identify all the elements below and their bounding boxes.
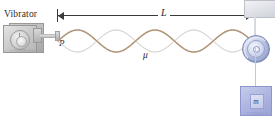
- mass-shadow: [239, 112, 271, 116]
- wave-envelope-upper: [58, 30, 252, 41]
- standing-wave-graphic: [0, 0, 275, 119]
- mass-label: m: [241, 87, 271, 115]
- hanging-string: [255, 48, 257, 86]
- physics-diagram-standing-wave: Vibrator P L μ: [0, 0, 275, 119]
- wave-envelope-lower: [58, 41, 252, 52]
- linear-density-label: μ: [143, 50, 148, 60]
